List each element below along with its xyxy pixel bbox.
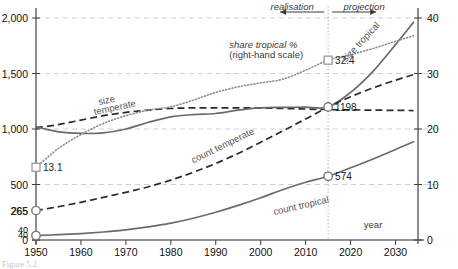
x-tick-label: 2010 bbox=[294, 246, 318, 258]
line-chart: 05001,0001,5002,000402650102030401950196… bbox=[0, 0, 458, 269]
x-tick-label: 2020 bbox=[339, 246, 363, 258]
marker-circle bbox=[324, 103, 332, 111]
x-tick-label: 1980 bbox=[159, 246, 183, 258]
axis-ticks bbox=[32, 18, 422, 245]
y2-tick-label: 0 bbox=[427, 234, 433, 246]
y2-tick-label: 40 bbox=[427, 12, 439, 24]
point-label: 32.4 bbox=[335, 55, 355, 66]
annotation-projection: projection bbox=[342, 1, 384, 12]
marker-square bbox=[324, 56, 332, 64]
chart-annotations: realisationprojectionshare tropical %(ri… bbox=[93, 1, 385, 231]
x-tick-label: 2030 bbox=[384, 246, 408, 258]
annotation--right-hand-scale-: (right-hand scale) bbox=[229, 49, 303, 60]
annotation-year: year bbox=[364, 219, 382, 230]
annotation-count-tropical: count tropical bbox=[272, 194, 330, 217]
point-label: 574 bbox=[335, 171, 352, 182]
annotation-realisation: realisation bbox=[271, 1, 314, 12]
marker-circle bbox=[32, 206, 40, 214]
point-label: 40 bbox=[18, 225, 28, 235]
point-label: 13.1 bbox=[43, 162, 63, 173]
chart-container: 05001,0001,5002,000402650102030401950196… bbox=[0, 0, 458, 269]
figure-caption: Figure 5.2 bbox=[2, 259, 37, 269]
marker-circle bbox=[32, 231, 40, 239]
x-tick-label: 2000 bbox=[249, 246, 273, 258]
y2-tick-label: 20 bbox=[427, 123, 439, 135]
series-lines bbox=[36, 22, 414, 235]
point-label: 1198 bbox=[335, 102, 357, 113]
y-tick-label: 500 bbox=[10, 179, 28, 191]
x-tick-label: 1960 bbox=[69, 246, 93, 258]
y-tick-label: 2,000 bbox=[2, 12, 28, 24]
x-tick-label: 1990 bbox=[204, 246, 228, 258]
marker-square bbox=[32, 163, 40, 171]
y2-tick-label: 10 bbox=[427, 179, 439, 191]
annotation-count-temperate: count temperate bbox=[189, 125, 256, 165]
point-label: 265 bbox=[11, 206, 28, 217]
y-tick-label: 1,500 bbox=[2, 68, 28, 80]
x-tick-label: 1950 bbox=[24, 246, 48, 258]
y2-tick-label: 30 bbox=[427, 68, 439, 80]
y-tick-label: 1,000 bbox=[2, 123, 28, 135]
marker-circle bbox=[324, 172, 332, 180]
series-count-tropical bbox=[36, 142, 414, 236]
x-tick-label: 1970 bbox=[114, 246, 138, 258]
